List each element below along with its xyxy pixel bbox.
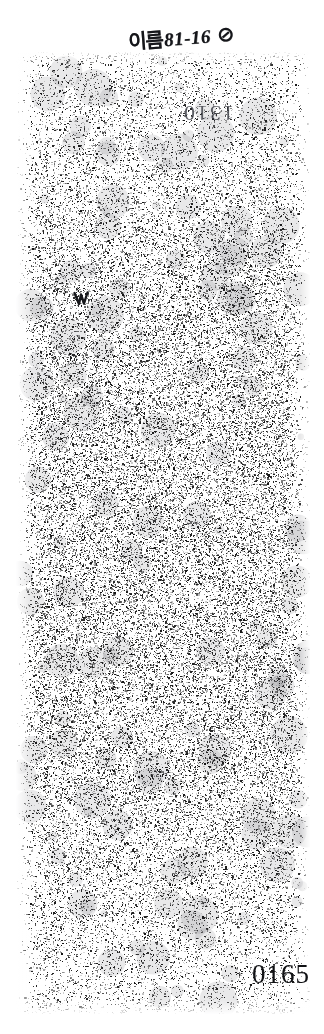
scan-noise-region: [16, 52, 310, 1014]
bleedthrough-number: 1310: [182, 100, 234, 126]
speckle-noise-canvas: [16, 52, 310, 1014]
handwritten-code: 81-16: [163, 26, 211, 51]
handwritten-circle-slash-icon: ⊘: [216, 22, 236, 47]
margin-tick-mark-icon: [72, 288, 94, 308]
handwritten-annotation: 이름81-16⊘: [127, 18, 236, 55]
scanned-document-page: 이름81-16⊘ 1310 0165: [0, 0, 324, 1034]
page-number-stamp: 0165: [252, 959, 310, 990]
handwritten-name-label: 이름: [127, 27, 163, 54]
